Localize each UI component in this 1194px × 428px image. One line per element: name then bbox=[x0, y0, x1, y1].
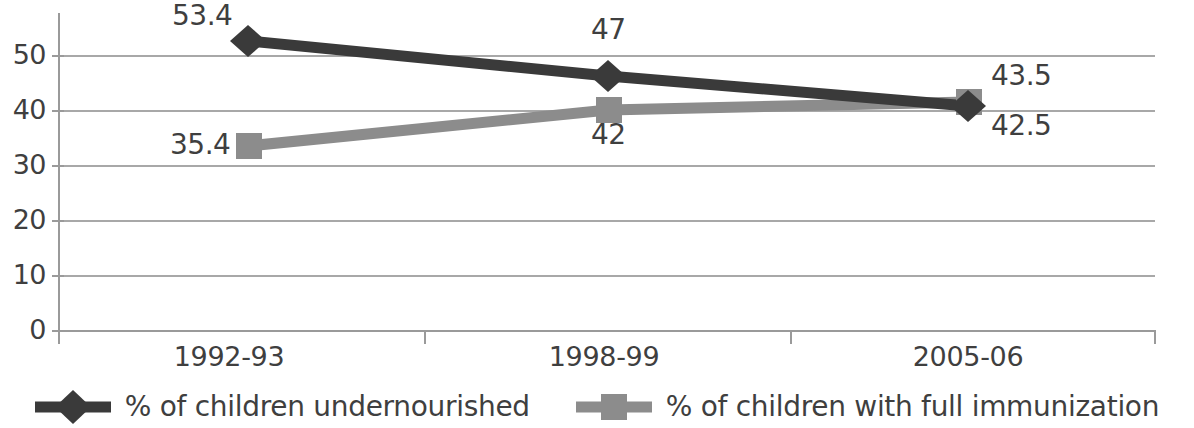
y-tick-label-20: 20 bbox=[0, 206, 46, 233]
y-tick-40 bbox=[52, 110, 64, 112]
diamond-marker-icon bbox=[35, 390, 111, 424]
y-tick-50 bbox=[52, 55, 64, 57]
y-tick-label-30: 30 bbox=[0, 151, 46, 178]
x-tick-label-2005-06: 2005-06 bbox=[913, 342, 1024, 372]
y-tick-20 bbox=[52, 220, 64, 222]
chart-legend: % of children undernourished % of childr… bbox=[0, 386, 1194, 428]
x-tick-label-1992-93: 1992-93 bbox=[174, 342, 285, 372]
square-marker-icon bbox=[576, 390, 652, 424]
x-tick-label-1998-99: 1998-99 bbox=[549, 342, 660, 372]
gridline-50 bbox=[58, 55, 1155, 57]
data-label-immunization-1998-99: 42 bbox=[591, 121, 626, 149]
y-tick-label-0: 0 bbox=[0, 316, 46, 343]
x-tick-start bbox=[58, 330, 60, 344]
legend-label-undernourished: % of children undernourished bbox=[125, 392, 530, 422]
y-tick-label-10: 10 bbox=[0, 261, 46, 288]
data-label-immunization-1992-93: 35.4 bbox=[170, 131, 230, 159]
x-tick-end bbox=[1154, 330, 1156, 344]
data-label-undernourished-1992-93: 53.4 bbox=[172, 2, 232, 30]
y-tick-label-50: 50 bbox=[0, 41, 46, 68]
x-axis-line bbox=[58, 330, 1155, 332]
gridline-20 bbox=[58, 220, 1155, 222]
y-tick-10 bbox=[52, 275, 64, 277]
data-label-undernourished-1998-99: 47 bbox=[591, 16, 626, 44]
y-tick-label-40: 40 bbox=[0, 96, 46, 123]
data-label-immunization-2005-06: 43.5 bbox=[991, 62, 1051, 90]
line-chart: 50 40 30 20 10 0 1992-93 1998-99 2005-06… bbox=[0, 0, 1194, 428]
legend-item-undernourished[interactable]: % of children undernourished bbox=[35, 390, 530, 424]
x-tick-1 bbox=[424, 330, 426, 344]
gridline-30 bbox=[58, 165, 1155, 167]
y-axis-line bbox=[58, 13, 60, 333]
y-tick-30 bbox=[52, 165, 64, 167]
gridline-10 bbox=[58, 275, 1155, 277]
data-label-undernourished-2005-06: 42.5 bbox=[991, 112, 1051, 140]
legend-item-immunization[interactable]: % of children with full immunization bbox=[576, 390, 1159, 424]
legend-label-immunization: % of children with full immunization bbox=[666, 392, 1159, 422]
x-tick-2 bbox=[790, 330, 792, 344]
